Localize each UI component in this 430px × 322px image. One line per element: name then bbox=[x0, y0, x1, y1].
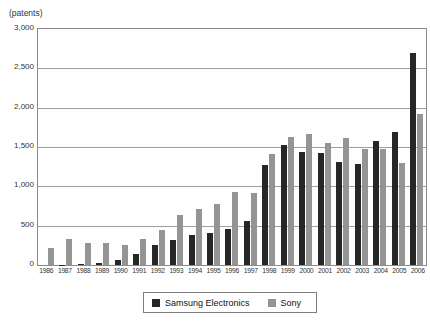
x-tick-label-1988: 1988 bbox=[74, 267, 93, 277]
sony-bar-2001 bbox=[325, 143, 331, 265]
x-tick-label-2000: 2000 bbox=[297, 267, 316, 277]
x-tick-label-1997: 1997 bbox=[241, 267, 260, 277]
sony-bar-1998 bbox=[269, 154, 275, 265]
bar-group-1991 bbox=[130, 29, 148, 265]
samsung-bar-2000 bbox=[299, 152, 305, 265]
patent-bar-chart: (patents) 05001,0001,5002,0002,5003,000 … bbox=[0, 0, 430, 322]
x-tick-label-1994: 1994 bbox=[186, 267, 205, 277]
x-tick-label-2003: 2003 bbox=[353, 267, 372, 277]
bar-group-1992 bbox=[149, 29, 167, 265]
samsung-bar-2005 bbox=[392, 132, 398, 265]
x-tick-label-2006: 2006 bbox=[409, 267, 428, 277]
bar-group-1988 bbox=[75, 29, 93, 265]
bar-group-2002 bbox=[334, 29, 352, 265]
sony-bar-2004 bbox=[380, 149, 386, 265]
samsung-bar-2002 bbox=[336, 162, 342, 265]
bar-group-2003 bbox=[352, 29, 370, 265]
y-axis-unit-label: (patents) bbox=[9, 8, 43, 18]
x-tick-label-1993: 1993 bbox=[167, 267, 186, 277]
y-tick-label: 500 bbox=[0, 220, 34, 230]
samsung-bar-1996 bbox=[225, 229, 231, 265]
sony-bar-2002 bbox=[343, 138, 349, 265]
sony-bar-1989 bbox=[103, 243, 109, 265]
x-tick-label-1990: 1990 bbox=[111, 267, 130, 277]
legend-label-samsung: Samsung Electronics bbox=[165, 298, 250, 308]
bar-group-2000 bbox=[297, 29, 315, 265]
samsung-bar-1988 bbox=[78, 264, 84, 265]
samsung-bar-1997 bbox=[244, 221, 250, 265]
samsung-bar-2006 bbox=[410, 53, 416, 265]
x-tick-label-1989: 1989 bbox=[93, 267, 112, 277]
bar-group-1997 bbox=[241, 29, 259, 265]
sony-bar-2003 bbox=[362, 149, 368, 265]
y-tick-label: 1,000 bbox=[0, 180, 34, 190]
x-tick-label-1986: 1986 bbox=[37, 267, 56, 277]
bar-group-2006 bbox=[408, 29, 426, 265]
y-tick-label: 1,500 bbox=[0, 141, 34, 151]
sony-bar-1988 bbox=[85, 243, 91, 265]
bar-group-1995 bbox=[204, 29, 222, 265]
samsung-bar-1993 bbox=[170, 240, 176, 265]
samsung-bar-1994 bbox=[189, 235, 195, 265]
bar-group-1999 bbox=[278, 29, 296, 265]
sony-bar-1990 bbox=[122, 245, 128, 265]
sony-bar-1996 bbox=[232, 192, 238, 265]
bar-group-1989 bbox=[93, 29, 111, 265]
sony-bar-1999 bbox=[288, 137, 294, 265]
sony-bar-1993 bbox=[177, 215, 183, 265]
samsung-bar-1991 bbox=[133, 254, 139, 265]
bar-group-1986 bbox=[38, 29, 56, 265]
bar-group-1990 bbox=[112, 29, 130, 265]
samsung-bar-2004 bbox=[373, 141, 379, 265]
x-axis-tick-labels: 1986198719881989199019911992199319941995… bbox=[37, 267, 427, 277]
x-tick-label-2004: 2004 bbox=[371, 267, 390, 277]
y-axis-tick-labels: 05001,0001,5002,0002,5003,000 bbox=[0, 28, 34, 264]
y-tick-label: 0 bbox=[0, 259, 34, 269]
plot-area bbox=[37, 28, 427, 266]
x-tick-label-2005: 2005 bbox=[390, 267, 409, 277]
samsung-bar-1995 bbox=[207, 233, 213, 265]
legend-label-sony: Sony bbox=[281, 298, 302, 308]
x-tick-label-2001: 2001 bbox=[316, 267, 335, 277]
sony-bar-1986 bbox=[48, 248, 54, 265]
samsung-bar-1999 bbox=[281, 145, 287, 265]
samsung-bar-2001 bbox=[318, 153, 324, 265]
samsung-legend-swatch-icon bbox=[152, 299, 160, 307]
legend-entry-samsung: Samsung Electronics bbox=[152, 298, 250, 308]
sony-bar-1992 bbox=[159, 230, 165, 265]
bar-group-1994 bbox=[186, 29, 204, 265]
bar-group-2005 bbox=[389, 29, 407, 265]
y-tick-label: 3,000 bbox=[0, 23, 34, 33]
sony-bar-2005 bbox=[399, 163, 405, 265]
samsung-bar-2003 bbox=[355, 164, 361, 265]
bar-group-1987 bbox=[56, 29, 74, 265]
sony-bar-1997 bbox=[251, 193, 257, 265]
x-tick-label-1998: 1998 bbox=[260, 267, 279, 277]
samsung-bar-1998 bbox=[262, 165, 268, 265]
bar-group-1993 bbox=[167, 29, 185, 265]
bar-group-2001 bbox=[315, 29, 333, 265]
bar-group-1996 bbox=[223, 29, 241, 265]
chart-legend: Samsung Electronics Sony bbox=[143, 292, 317, 313]
sony-bar-1994 bbox=[196, 209, 202, 265]
y-tick-label: 2,000 bbox=[0, 102, 34, 112]
sony-bar-1995 bbox=[214, 204, 220, 265]
bar-group-1998 bbox=[260, 29, 278, 265]
y-tick-label: 2,500 bbox=[0, 62, 34, 72]
samsung-bar-1992 bbox=[152, 245, 158, 265]
sony-bar-1987 bbox=[66, 239, 72, 265]
x-tick-label-1992: 1992 bbox=[148, 267, 167, 277]
x-tick-label-1995: 1995 bbox=[204, 267, 223, 277]
sony-bar-2006 bbox=[417, 114, 423, 265]
sony-legend-swatch-icon bbox=[268, 299, 276, 307]
x-tick-label-1991: 1991 bbox=[130, 267, 149, 277]
x-tick-label-1996: 1996 bbox=[223, 267, 242, 277]
x-tick-label-2002: 2002 bbox=[334, 267, 353, 277]
samsung-bar-1990 bbox=[115, 260, 121, 265]
bar-group-2004 bbox=[371, 29, 389, 265]
samsung-bar-1989 bbox=[96, 263, 102, 265]
sony-bar-2000 bbox=[306, 134, 312, 265]
x-tick-label-1987: 1987 bbox=[56, 267, 75, 277]
sony-bar-1991 bbox=[140, 239, 146, 265]
x-tick-label-1999: 1999 bbox=[279, 267, 298, 277]
